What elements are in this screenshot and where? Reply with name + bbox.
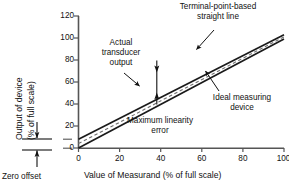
y-tick-label-20: 20 bbox=[52, 121, 74, 130]
annotation-max-linearity-error-2: error bbox=[112, 126, 208, 136]
y-tick-label-0: 0 bbox=[52, 143, 74, 152]
annotation-ideal-device-1: Ideal measuring bbox=[198, 93, 286, 103]
x-tick-label-60: 60 bbox=[192, 154, 212, 163]
annotation-max-linearity-error-1: Maximum linearity bbox=[112, 116, 208, 126]
y-axis-title-line1: Output of device bbox=[14, 77, 24, 140]
y-tick-label-40: 40 bbox=[52, 99, 74, 108]
x-axis-title: Value of Measurand (% of full scale) bbox=[84, 170, 221, 180]
y-tick-label-60: 60 bbox=[52, 77, 74, 86]
annotation-terminal-point-line-2: straight line bbox=[152, 12, 284, 22]
x-tick-label-40: 40 bbox=[151, 154, 171, 163]
y-tick-label-100: 100 bbox=[52, 33, 74, 42]
x-tick-label-0: 0 bbox=[69, 154, 89, 163]
y-tick-label-120: 120 bbox=[52, 11, 74, 20]
y-tick-label-80: 80 bbox=[52, 55, 74, 64]
annotation-zero-offset: Zero offset bbox=[2, 172, 74, 182]
x-tick-label-20: 20 bbox=[110, 154, 130, 163]
annotation-ideal-device-2: device bbox=[198, 103, 286, 113]
annotation-actual-output-1: Actual bbox=[90, 38, 152, 48]
annotation-actual-output-3: output bbox=[90, 58, 152, 68]
annotation-terminal-point-line-1: Terminal-point-based bbox=[152, 2, 284, 12]
x-tick-label-80: 80 bbox=[233, 154, 253, 163]
y-axis-title-line2: (% of full scale) bbox=[26, 81, 36, 140]
x-tick-label-100: 100 bbox=[273, 154, 290, 163]
annotation-actual-output-2: transducer bbox=[90, 48, 152, 58]
